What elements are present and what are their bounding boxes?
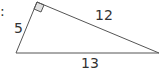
edge-marker: : — [0, 3, 5, 19]
triangle-diagram: : 5 12 13 — [0, 0, 167, 75]
side-label-base: 13 — [81, 55, 99, 71]
side-label-hypotenuse: 12 — [95, 7, 113, 23]
right-angle-marker — [34, 2, 44, 12]
side-label-left: 5 — [14, 20, 23, 36]
